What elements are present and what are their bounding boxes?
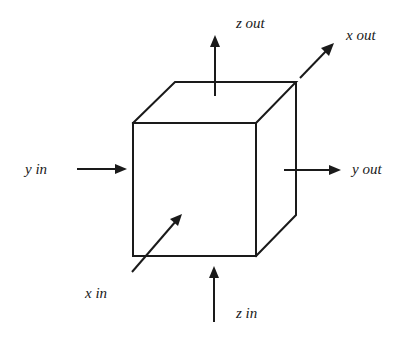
- x-in-label: x in: [84, 285, 107, 301]
- x-out-arrow-icon: [300, 43, 334, 78]
- z-out-label: z out: [235, 15, 266, 31]
- x-in-arrow-icon: [132, 214, 182, 272]
- labels: z out x out y in y out x in z in: [23, 15, 382, 321]
- y-in-label: y in: [23, 161, 47, 177]
- y-out-arrow-icon: [284, 165, 341, 175]
- cube: [133, 82, 296, 256]
- z-in-arrow-icon: [209, 266, 219, 322]
- y-in-arrow-icon: [77, 164, 127, 174]
- z-in-label: z in: [235, 305, 257, 321]
- flux-cube-diagram: z out x out y in y out x in z in: [0, 0, 409, 344]
- y-out-label: y out: [350, 161, 382, 177]
- x-out-label: x out: [345, 27, 376, 43]
- cube-front-face: [133, 123, 256, 256]
- z-out-arrow-icon: [210, 35, 220, 96]
- arrows: [77, 35, 341, 322]
